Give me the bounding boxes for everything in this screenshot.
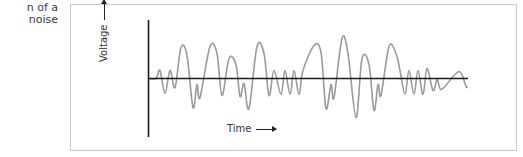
signal-line bbox=[148, 36, 467, 118]
y-axis-label-text: Voltage bbox=[97, 24, 111, 62]
x-axis-label-text: Time bbox=[227, 123, 251, 135]
arrow-right-icon bbox=[256, 129, 276, 130]
y-axis-label: Voltage bbox=[97, 0, 111, 62]
x-axis-label: Time bbox=[227, 123, 276, 135]
arrow-up-icon bbox=[104, 0, 105, 20]
